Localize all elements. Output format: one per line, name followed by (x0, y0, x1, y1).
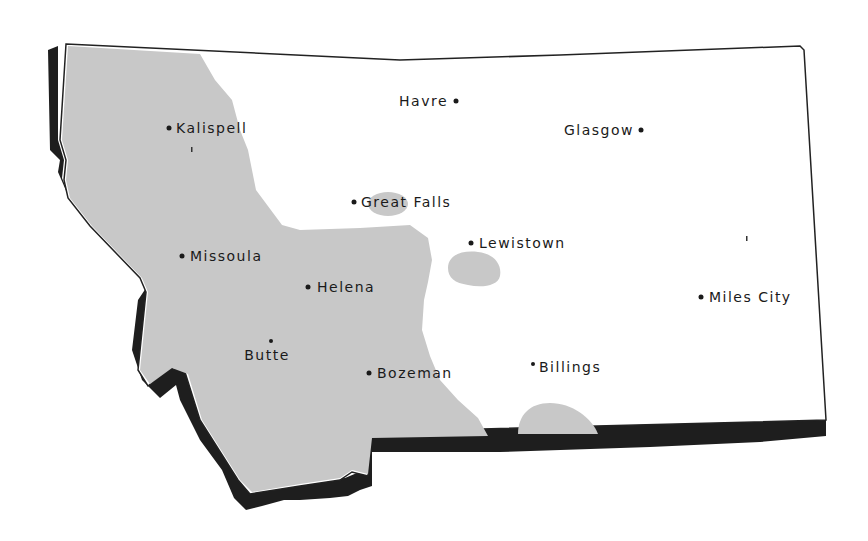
mark-tick (746, 236, 748, 241)
city-label: Glasgow (564, 122, 634, 138)
montana-map: Havre Glasgow Kalispell Great Falls Lewi… (0, 0, 868, 541)
city-lewistown: Lewistown (469, 235, 566, 251)
city-label: Lewistown (479, 235, 566, 251)
city-miles-city: Miles City (699, 289, 792, 305)
city-label: Havre (399, 93, 448, 109)
city-kalispell: Kalispell (167, 120, 248, 136)
city-glasgow: Glasgow (564, 122, 644, 138)
city-great-falls: Great Falls (352, 194, 452, 210)
city-billings: Billings (531, 359, 601, 375)
city-label: Helena (317, 279, 375, 295)
city-label: Miles City (709, 289, 792, 305)
city-label: Butte (244, 347, 290, 363)
city-missoula: Missoula (180, 248, 263, 264)
city-label: Bozeman (377, 365, 453, 381)
city-bozeman: Bozeman (367, 365, 453, 381)
city-label: Kalispell (176, 120, 247, 136)
city-label: Billings (539, 359, 601, 375)
mark-tick (191, 147, 193, 152)
city-label: Missoula (190, 248, 262, 264)
city-label: Great Falls (361, 194, 451, 210)
